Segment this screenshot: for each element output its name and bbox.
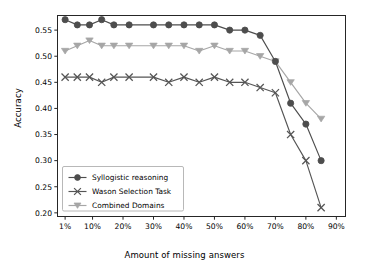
plot-canvas: 0.200.250.300.350.400.450.500.551%10%20%… bbox=[0, 0, 369, 267]
data-point-marker bbox=[287, 80, 294, 86]
data-point-marker bbox=[287, 131, 294, 138]
data-point-marker bbox=[86, 38, 93, 44]
data-point-marker bbox=[196, 48, 203, 54]
chart-figure: 0.200.250.300.350.400.450.500.551%10%20%… bbox=[0, 0, 369, 267]
x-tick-label: 30% bbox=[145, 222, 162, 231]
data-point-marker bbox=[74, 43, 81, 49]
data-point-marker bbox=[196, 79, 203, 86]
data-point-marker bbox=[74, 22, 80, 28]
data-point-marker bbox=[111, 22, 117, 28]
y-axis-label: Accuracy bbox=[10, 0, 26, 216]
data-point-marker bbox=[227, 27, 233, 33]
x-tick-label: 60% bbox=[236, 222, 253, 231]
x-axis-label-text: Amount of missing answers bbox=[125, 250, 245, 260]
data-point-marker bbox=[303, 121, 309, 127]
data-point-marker bbox=[318, 158, 324, 164]
data-point-marker bbox=[98, 79, 105, 86]
y-tick-label: 0.50 bbox=[35, 52, 52, 61]
data-point-marker bbox=[211, 22, 217, 28]
x-tick-label: 80% bbox=[297, 222, 314, 231]
legend-label: Combined Domains bbox=[92, 201, 165, 210]
legend-label: Syllogistic reasoning bbox=[92, 173, 168, 182]
data-point-marker bbox=[75, 175, 81, 181]
data-point-marker bbox=[256, 54, 263, 60]
data-point-marker bbox=[62, 17, 68, 23]
y-tick-label: 0.40 bbox=[35, 104, 52, 113]
data-point-marker bbox=[196, 22, 202, 28]
data-point-marker bbox=[181, 22, 187, 28]
x-tick-label: 90% bbox=[328, 222, 345, 231]
data-point-marker bbox=[180, 74, 187, 81]
x-tick-label: 1% bbox=[59, 222, 71, 231]
data-point-marker bbox=[302, 157, 309, 164]
plot-area: 0.200.250.300.350.400.450.500.551%10%20%… bbox=[35, 16, 345, 232]
data-point-marker bbox=[86, 22, 92, 28]
x-tick-label: 20% bbox=[115, 222, 132, 231]
data-point-marker bbox=[257, 32, 263, 38]
data-point-marker bbox=[317, 116, 324, 122]
data-point-marker bbox=[211, 43, 218, 49]
data-point-marker bbox=[126, 22, 132, 28]
y-tick-label: 0.30 bbox=[35, 156, 52, 165]
series-line bbox=[65, 20, 321, 161]
series-1 bbox=[62, 17, 324, 164]
y-tick-label: 0.35 bbox=[35, 130, 52, 139]
y-tick-label: 0.45 bbox=[35, 78, 52, 87]
data-point-marker bbox=[61, 48, 68, 54]
x-axis-label: Amount of missing answers bbox=[0, 243, 369, 262]
y-tick-label: 0.20 bbox=[35, 209, 52, 218]
data-point-marker bbox=[166, 22, 172, 28]
data-point-marker bbox=[257, 84, 264, 91]
data-point-marker bbox=[272, 58, 278, 64]
x-tick-label: 70% bbox=[267, 222, 284, 231]
data-point-marker bbox=[318, 204, 325, 211]
x-tick-label: 10% bbox=[84, 222, 101, 231]
data-point-marker bbox=[150, 22, 156, 28]
data-point-marker bbox=[242, 27, 248, 33]
data-point-marker bbox=[211, 74, 218, 81]
legend: Syllogistic reasoningWason Selection Tas… bbox=[63, 167, 184, 212]
legend-label: Wason Selection Task bbox=[92, 187, 172, 196]
y-tick-label: 0.55 bbox=[35, 26, 52, 35]
data-point-marker bbox=[288, 100, 294, 106]
x-tick-label: 40% bbox=[176, 222, 193, 231]
data-point-marker bbox=[272, 89, 279, 96]
data-point-marker bbox=[99, 17, 105, 23]
y-tick-label: 0.25 bbox=[35, 183, 52, 192]
x-tick-label: 50% bbox=[206, 222, 223, 231]
data-point-marker bbox=[165, 79, 172, 86]
y-axis-label-text: Accuracy bbox=[13, 88, 23, 128]
